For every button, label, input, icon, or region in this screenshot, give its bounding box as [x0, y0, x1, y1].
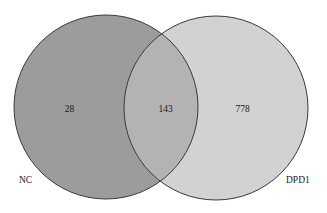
set-label-nc: NC	[19, 175, 32, 185]
dpd1-only-count: 778	[235, 104, 250, 114]
nc-only-count: 28	[65, 104, 75, 114]
set-label-dpd1: DPD1	[286, 175, 310, 185]
overlap-count: 143	[158, 104, 173, 114]
venn-diagram: 28 143 778 NC DPD1	[0, 0, 327, 213]
